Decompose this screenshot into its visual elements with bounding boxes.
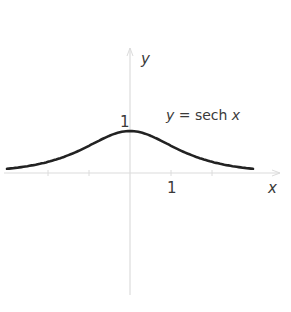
x-tick-label-1: 1	[167, 179, 177, 197]
equation-label: y = sech x	[165, 107, 241, 123]
equation-rest: = sech	[174, 107, 232, 123]
y-tick-label-1: 1	[120, 113, 130, 131]
sech-graph: y x 1 1 y = sech x	[0, 0, 291, 312]
y-axis-label: y	[140, 50, 151, 68]
x-axis-label: x	[267, 179, 277, 197]
equation-x: x	[231, 107, 241, 123]
